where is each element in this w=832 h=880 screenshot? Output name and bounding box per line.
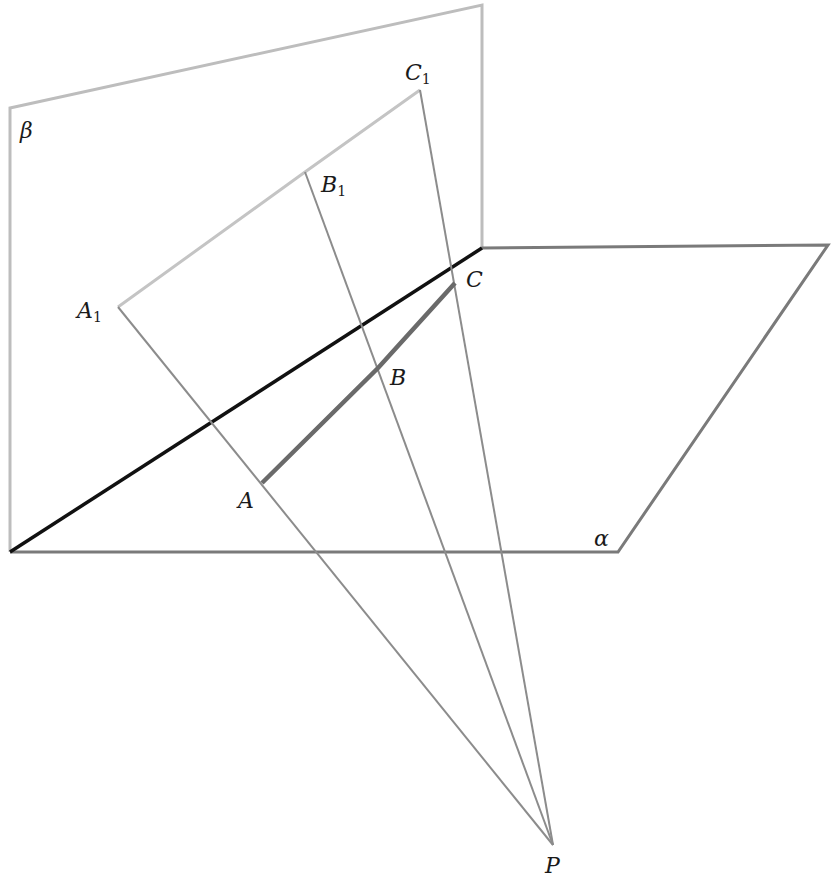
label-c1: C1 (405, 60, 431, 87)
label-p: P (544, 853, 561, 878)
label-beta: β (19, 118, 33, 143)
plane-alpha-outline (10, 245, 828, 552)
line-a1-p (118, 307, 553, 845)
segment-a-b-c (262, 283, 455, 483)
plane-beta-outline (10, 5, 482, 552)
projection-diagram: β α C1 B1 A1 C B A P (0, 0, 832, 880)
label-alpha: α (594, 526, 609, 551)
line-b1-p (305, 172, 553, 845)
label-b: B (389, 365, 406, 390)
label-a1: A1 (75, 298, 102, 325)
label-b1: B1 (320, 172, 346, 199)
label-a: A (236, 488, 254, 513)
line-c1-p (420, 90, 553, 845)
label-c: C (466, 267, 483, 292)
segment-a1-b1-c1 (118, 90, 420, 307)
